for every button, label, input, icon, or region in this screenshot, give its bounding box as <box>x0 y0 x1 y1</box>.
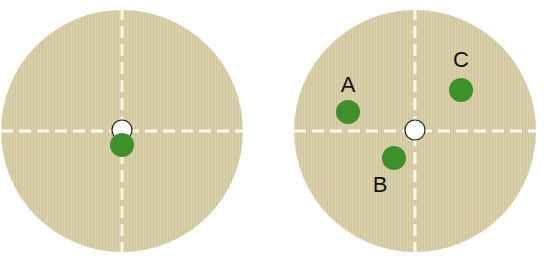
left-plate <box>1 8 243 254</box>
label-b: B <box>373 172 388 197</box>
organism-dot-a <box>336 100 360 124</box>
organism-dot <box>110 133 134 157</box>
organism-dot-c <box>449 78 473 102</box>
right-plate: A B C <box>294 8 536 254</box>
label-a: A <box>341 72 356 97</box>
organism-dot-b <box>382 146 406 170</box>
label-c: C <box>453 47 469 72</box>
diagram-canvas: A B C <box>0 0 544 261</box>
center-marker <box>405 120 425 140</box>
